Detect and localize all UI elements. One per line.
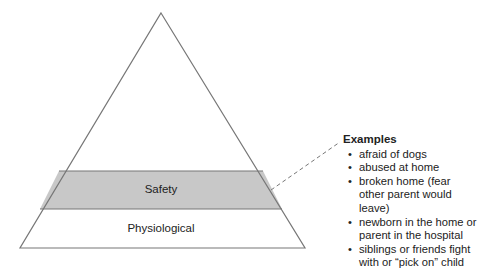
examples-title: Examples [343,133,486,147]
examples-callout: Examples afraid of dogs abused at home b… [343,133,486,270]
example-item: abused at home [343,161,486,175]
example-item: newborn in the home or parent in the hos… [343,216,484,243]
level-label-physiological: Physiological [101,222,221,234]
example-item: afraid of dogs [343,148,486,162]
level-label-safety: Safety [111,183,211,195]
example-item: siblings or friends fight with or “pick … [343,243,484,270]
callout-connector [271,142,340,190]
example-item: broken home (fear other parent would lea… [343,175,479,216]
examples-list: afraid of dogs abused at home broken hom… [343,148,486,270]
pyramid-outline [20,13,305,248]
